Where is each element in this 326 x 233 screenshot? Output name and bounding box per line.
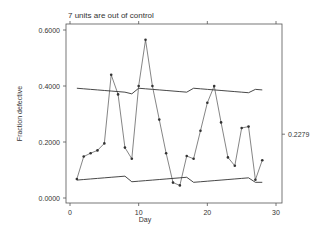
data-point [220, 121, 223, 124]
x-tick-label: 30 [272, 209, 280, 216]
lcl-line [77, 176, 262, 182]
data-point [227, 156, 230, 159]
ucl-line [77, 88, 262, 94]
data-point [96, 149, 99, 152]
data-point [199, 130, 202, 133]
data-point [137, 85, 140, 88]
data-point [240, 127, 243, 130]
y-axis-label: Fraction defective [16, 86, 23, 141]
data-point [82, 155, 85, 158]
data-point [179, 184, 182, 187]
data-point [172, 181, 175, 184]
data-point [151, 85, 154, 88]
x-axis-label: Day [139, 216, 152, 224]
data-point [192, 158, 195, 161]
data-point [165, 152, 168, 155]
control-chart: 7 units are out of control0102030Day0.00… [0, 0, 326, 233]
center-line-label: 0.2279 [288, 131, 310, 138]
data-point [254, 179, 257, 182]
data-point [213, 85, 216, 88]
data-point [206, 102, 209, 105]
x-tick-label: 10 [135, 209, 143, 216]
data-point [117, 93, 120, 96]
data-point [103, 142, 106, 145]
data-point [185, 155, 188, 158]
y-tick-label: 0.2000 [39, 139, 61, 146]
y-tick-label: 0.4000 [39, 83, 61, 90]
data-line [77, 40, 262, 186]
chart-title: 7 units are out of control [68, 11, 154, 20]
plot-frame [66, 24, 282, 203]
x-tick-label: 0 [68, 209, 72, 216]
data-point [131, 158, 134, 161]
data-point [144, 39, 147, 42]
y-tick-label: 0.0000 [39, 195, 61, 202]
y-tick-label: 0.6000 [39, 27, 61, 34]
data-point [261, 159, 264, 162]
data-point [234, 165, 237, 168]
data-point [247, 125, 250, 128]
x-tick-label: 20 [203, 209, 211, 216]
data-point [89, 152, 92, 155]
data-point [110, 74, 113, 77]
data-point [158, 118, 161, 121]
data-point [124, 146, 127, 149]
